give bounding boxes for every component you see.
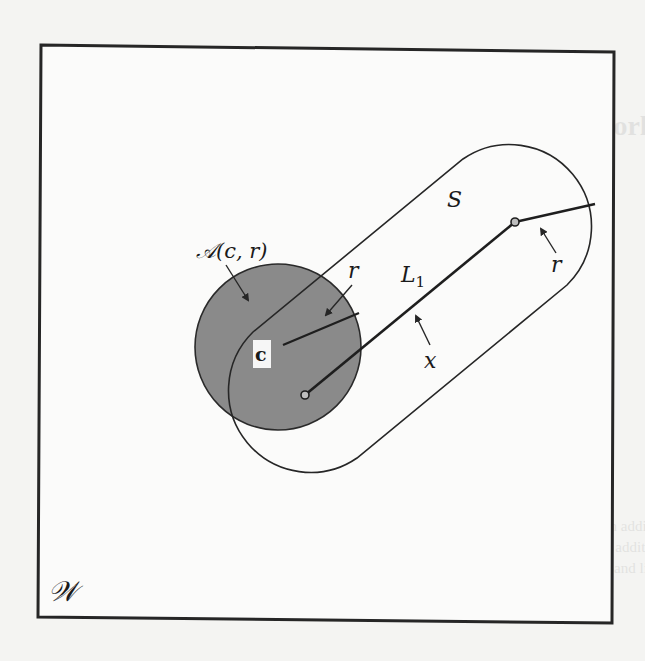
capsule-radius-label: r bbox=[551, 252, 563, 277]
set-s-label: S bbox=[447, 187, 462, 212]
disk-a-label: 𝒜(c, r) bbox=[196, 239, 268, 263]
center-c-label: c bbox=[255, 343, 267, 365]
disk-radius-label: r bbox=[348, 258, 360, 283]
link-l1-subscript: 1 bbox=[416, 273, 426, 291]
link-endpoint-receiver bbox=[511, 218, 519, 226]
point-x-label: x bbox=[424, 348, 437, 373]
diagram-canvas: 𝒲 S 𝒜(c, r) L1 x c r r bbox=[0, 0, 645, 661]
disk-a-c-r bbox=[195, 264, 361, 430]
link-endpoint-transmitter bbox=[301, 391, 309, 399]
